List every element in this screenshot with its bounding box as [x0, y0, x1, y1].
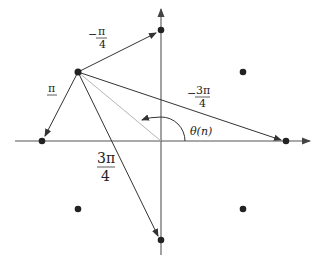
label-numerator: π: [48, 82, 55, 95]
label-denominator: 4: [199, 97, 206, 110]
arrow-to-right: [78, 72, 281, 140]
guide-line-to-origin: [78, 72, 161, 141]
constellation-point-right: [283, 138, 290, 145]
label-denominator: 4: [99, 38, 106, 51]
label-minus-pi-over-4: − π 4: [88, 25, 107, 51]
phase-constellation-diagram: − π 4 π − 3π 4 3π 4 θ(n): [0, 0, 328, 263]
constellation-point-bottom: [158, 237, 165, 244]
constellation-point-upper-left: [75, 69, 82, 76]
label-numerator: 3π: [97, 150, 115, 166]
constellation-point-left: [39, 138, 46, 145]
label-sign: −: [88, 28, 97, 41]
arrow-to-bottom: [78, 72, 158, 236]
constellation-point-lower-right: [240, 206, 247, 213]
label-3pi-over-4: 3π 4: [97, 150, 115, 184]
label-minus-3pi-over-4: − 3π 4: [187, 84, 210, 110]
constellation-point-lower-left: [75, 206, 82, 213]
label-numerator: π: [98, 25, 105, 38]
constellation-point-upper-right: [240, 69, 247, 76]
label-pi: π: [47, 82, 57, 95]
label-numerator: 3π: [196, 84, 210, 97]
constellation-point-top: [158, 27, 165, 34]
label-theta: θ(n): [190, 125, 212, 138]
label-denominator: 4: [101, 168, 110, 184]
theta-angle-arc: [142, 117, 185, 141]
label-sign: −: [187, 87, 196, 100]
